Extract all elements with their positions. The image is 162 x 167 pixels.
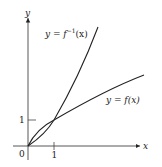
y-axis-label: y — [24, 8, 31, 18]
curve-f-inverse — [28, 27, 98, 146]
function-inverse-diagram: y x 0 1 1 y = f−1(x) y = f(x) — [0, 0, 162, 167]
curve-f — [28, 75, 144, 146]
label-f: y = f(x) — [105, 95, 140, 105]
origin-label: 0 — [19, 149, 25, 159]
y-tick-label: 1 — [19, 115, 25, 125]
x-tick-label: 1 — [52, 150, 58, 160]
label-f-inverse: y = f−1(x) — [44, 27, 88, 39]
x-axis-label: x — [143, 141, 148, 151]
